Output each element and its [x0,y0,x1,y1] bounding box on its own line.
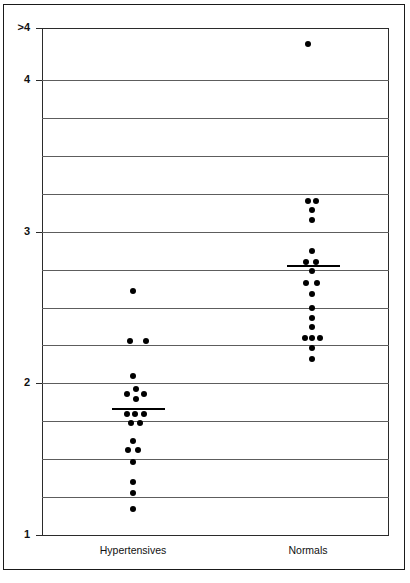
gridline [42,80,389,81]
y-axis-label: 2 [4,377,30,388]
y-axis-label: 4 [4,74,30,85]
gridline [42,345,389,346]
y-axis-label: >4 [4,22,30,33]
gridline [42,232,389,233]
y-axis-tick [36,28,42,29]
data-point [305,41,311,47]
data-point [143,338,149,344]
data-point [130,373,136,379]
data-point [309,268,315,274]
data-point [309,324,315,330]
chart-container: Average Rapid Left Ventricular Filling R… [0,0,410,583]
gridline [42,118,389,119]
y-axis-label: 1 [4,529,30,540]
data-point [124,391,130,397]
data-point [309,305,315,311]
mean-line [112,408,165,410]
data-point [125,447,131,453]
gridline [42,383,389,384]
y-axis-tick [36,80,42,81]
data-point [127,338,133,344]
x-axis-label-normals: Normals [248,545,368,556]
data-point [130,479,136,485]
gridline [42,156,389,157]
y-axis-label: 3 [4,226,30,237]
gridline [42,270,389,271]
data-point [309,315,315,321]
gridline [42,421,389,422]
gridline [42,497,389,498]
data-point [309,291,315,297]
data-point [309,335,315,341]
data-point [130,438,136,444]
gridline [42,308,389,309]
data-point [317,335,323,341]
data-point [130,490,136,496]
data-point [137,420,143,426]
data-point [133,396,139,402]
x-axis-label-hypertensives: Hypertensives [73,545,193,556]
y-axis-tick [36,383,42,384]
data-point [124,411,130,417]
data-point [132,411,138,417]
data-point [302,335,308,341]
data-point [309,356,315,362]
y-axis-tick [36,535,42,536]
data-point [128,420,134,426]
data-point [309,217,315,223]
data-point [130,288,136,294]
mean-line [287,265,340,267]
gridline [42,194,389,195]
y-axis-tick [36,232,42,233]
gridline [42,459,389,460]
